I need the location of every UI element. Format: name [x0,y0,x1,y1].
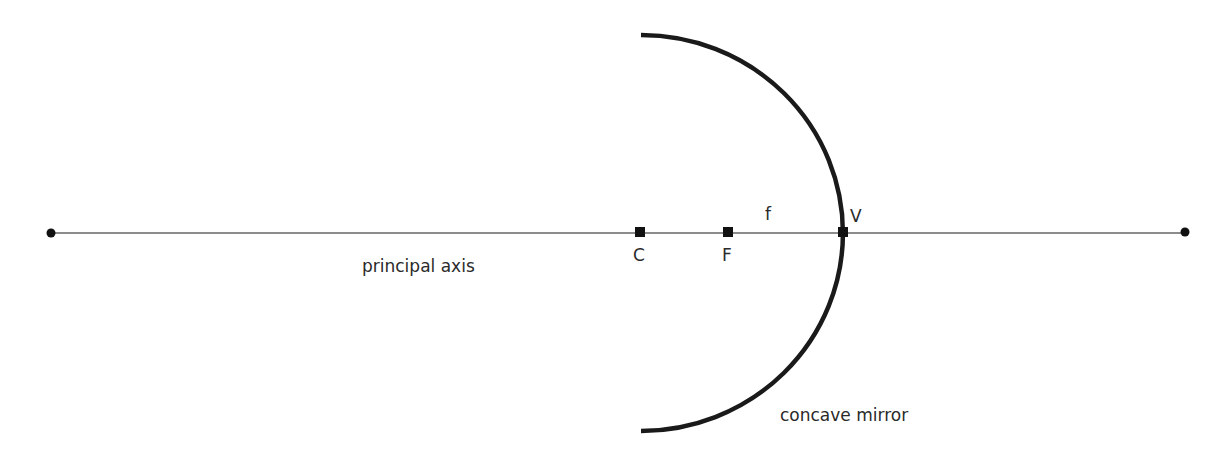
concave-mirror-label: concave mirror [780,405,908,425]
point-f-marker [723,227,733,237]
point-c-label: C [633,245,645,265]
mirror-diagram: C F V f principal axis concave mirror [0,0,1229,455]
focal-length-label: f [765,204,772,224]
point-v-label: V [850,206,862,226]
principal-axis-label: principal axis [362,256,475,276]
point-f-label: F [722,245,732,265]
axis-right-endpoint [1181,228,1190,237]
axis-left-endpoint [47,229,56,238]
point-c-marker [635,227,645,237]
point-v-marker [838,227,848,237]
